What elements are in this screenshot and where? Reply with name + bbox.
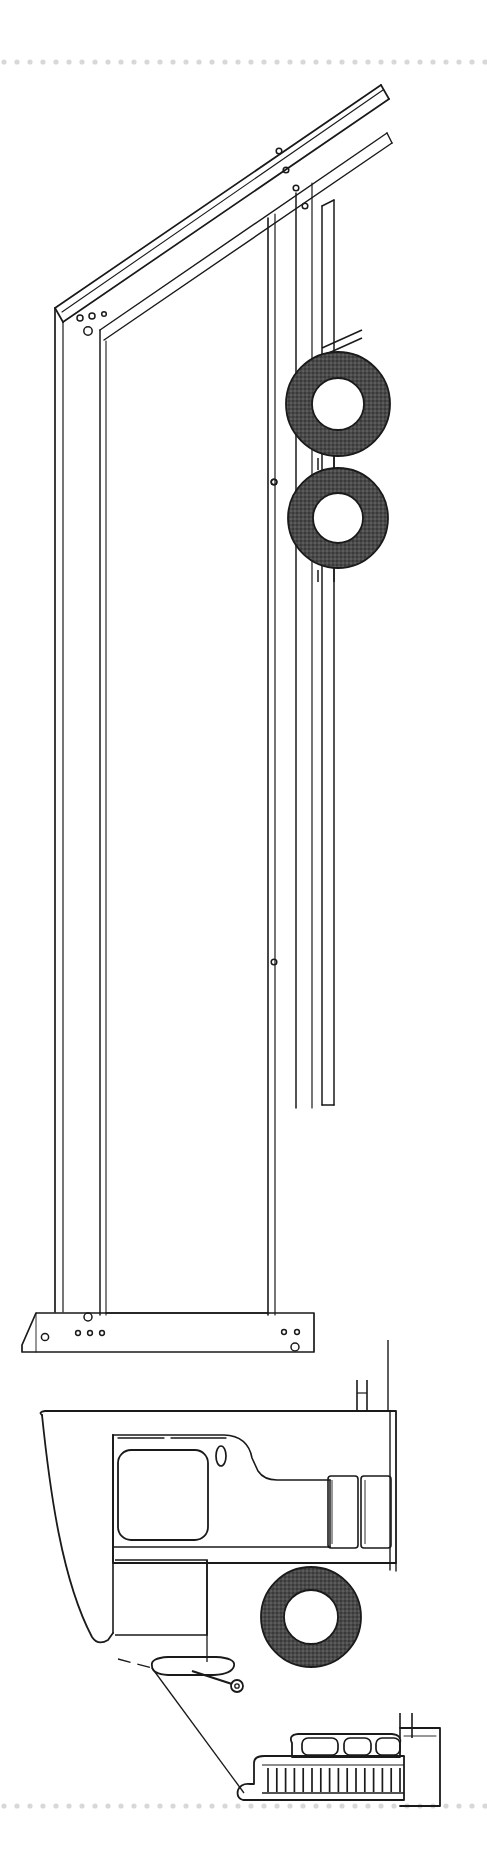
scan-dot bbox=[27, 59, 32, 64]
scan-dot bbox=[222, 59, 227, 64]
scan-dot bbox=[14, 1803, 19, 1808]
scan-dot bbox=[261, 59, 266, 64]
scan-dot bbox=[66, 59, 71, 64]
scan-dot bbox=[157, 1803, 162, 1808]
scan-dot bbox=[287, 1803, 292, 1808]
scan-dot bbox=[183, 1803, 188, 1808]
drawing-page bbox=[0, 0, 487, 1866]
scan-dot bbox=[53, 1803, 58, 1808]
scan-dot bbox=[131, 59, 136, 64]
scan-dot bbox=[469, 59, 474, 64]
rear-upper-hub bbox=[312, 378, 364, 430]
dump-truck-side-elevation-drawing bbox=[0, 0, 487, 1866]
scan-dot bbox=[79, 59, 84, 64]
scan-dot bbox=[235, 59, 240, 64]
scan-dot bbox=[1, 59, 6, 64]
scan-dot bbox=[391, 59, 396, 64]
scan-dot bbox=[378, 1803, 383, 1808]
scan-dot bbox=[92, 59, 97, 64]
scan-dot bbox=[339, 59, 344, 64]
scan-dot bbox=[261, 1803, 266, 1808]
scan-dot bbox=[144, 59, 149, 64]
scan-dot bbox=[170, 59, 175, 64]
scan-dot bbox=[170, 1803, 175, 1808]
rear-lower-tire bbox=[288, 468, 388, 568]
scan-dot bbox=[365, 1803, 370, 1808]
scan-dot bbox=[287, 59, 292, 64]
scan-dot bbox=[313, 59, 318, 64]
scan-dot bbox=[326, 59, 331, 64]
scan-dot bbox=[209, 59, 214, 64]
scan-dot bbox=[274, 1803, 279, 1808]
scan-dot bbox=[118, 1803, 123, 1808]
scan-dot bbox=[40, 1803, 45, 1808]
scan-dot bbox=[365, 59, 370, 64]
scan-dot bbox=[92, 1803, 97, 1808]
scan-dot bbox=[118, 59, 123, 64]
scan-dot bbox=[417, 59, 422, 64]
scan-dot bbox=[300, 59, 305, 64]
scan-dot bbox=[391, 1803, 396, 1808]
scan-dot bbox=[79, 1803, 84, 1808]
scan-dot bbox=[456, 59, 461, 64]
scan-dot bbox=[456, 1803, 461, 1808]
scan-dot bbox=[404, 59, 409, 64]
scan-dot bbox=[352, 59, 357, 64]
drawing-canvas bbox=[0, 0, 487, 1866]
scan-dot bbox=[313, 1803, 318, 1808]
scan-dot bbox=[144, 1803, 149, 1808]
scan-dot bbox=[14, 59, 19, 64]
scan-dot bbox=[183, 59, 188, 64]
scan-dot bbox=[196, 1803, 201, 1808]
scan-dot bbox=[443, 1803, 448, 1808]
scan-dot bbox=[196, 59, 201, 64]
scan-dot bbox=[105, 59, 110, 64]
scan-dot bbox=[235, 1803, 240, 1808]
scan-dot bbox=[430, 59, 435, 64]
rear-upper-tire bbox=[286, 352, 390, 456]
scan-dot bbox=[352, 1803, 357, 1808]
scan-dot bbox=[274, 59, 279, 64]
scan-dot bbox=[300, 1803, 305, 1808]
scan-dot bbox=[40, 59, 45, 64]
scan-dot bbox=[248, 59, 253, 64]
scan-dot bbox=[443, 59, 448, 64]
scan-dot bbox=[105, 1803, 110, 1808]
scan-dot bbox=[248, 1803, 253, 1808]
scan-dot bbox=[378, 59, 383, 64]
scan-dot bbox=[131, 1803, 136, 1808]
scan-dot bbox=[1, 1803, 6, 1808]
scan-dot bbox=[222, 1803, 227, 1808]
scan-dot bbox=[339, 1803, 344, 1808]
scan-dot bbox=[157, 59, 162, 64]
scan-dot bbox=[209, 1803, 214, 1808]
scan-dot bbox=[53, 59, 58, 64]
scan-dot bbox=[27, 1803, 32, 1808]
scan-dot bbox=[469, 1803, 474, 1808]
scan-dot bbox=[66, 1803, 71, 1808]
rear-lower-hub bbox=[313, 493, 363, 543]
scan-dot bbox=[326, 1803, 331, 1808]
front-hub bbox=[284, 1590, 338, 1644]
